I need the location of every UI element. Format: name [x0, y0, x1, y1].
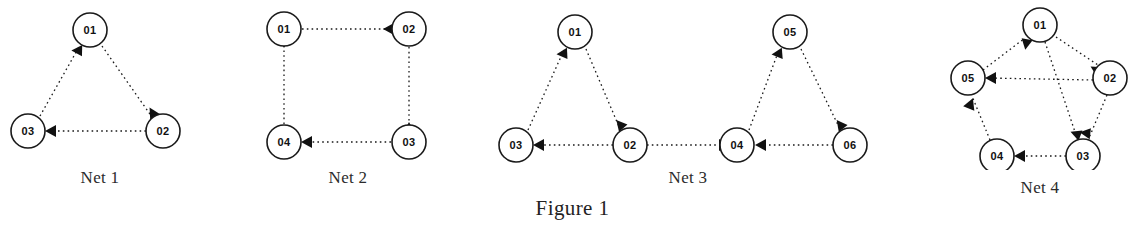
node-03[interactable]: 03: [1066, 139, 1100, 170]
net-2-nodes: 01 02 03 04: [267, 12, 426, 159]
net-panel-2: 01 02 03 04 Net 2: [238, 0, 458, 200]
node-01[interactable]: 01: [73, 13, 107, 47]
node-label: 03: [509, 139, 522, 151]
arrowhead-03-to-04: [1014, 150, 1025, 162]
net-2-graph: 01 02 03 04: [238, 0, 458, 170]
net-1-edges: [40, 42, 160, 137]
node-02[interactable]: 02: [146, 114, 180, 148]
node-label: 04: [990, 150, 1004, 162]
net-4-caption: Net 4: [935, 178, 1145, 198]
node-label: 01: [568, 26, 581, 38]
edge-01-to-02: [1056, 37, 1098, 65]
node-01[interactable]: 01: [267, 12, 301, 46]
arrowhead-02-to-05: [985, 72, 996, 84]
edge-01-to-02: [586, 49, 620, 129]
net-2-caption: Net 2: [238, 168, 458, 188]
arrowhead-04-to-05: [963, 96, 978, 111]
node-label: 01: [83, 24, 96, 36]
edge-01-to-02: [102, 46, 152, 117]
node-03[interactable]: 03: [499, 128, 533, 162]
edge-03-to-01: [528, 50, 564, 130]
net-3-edges: [528, 45, 848, 151]
node-05[interactable]: 05: [773, 15, 807, 49]
node-03[interactable]: 03: [392, 125, 426, 159]
net-4-nodes: 01 02 03 04 05: [951, 8, 1127, 170]
node-label: 03: [21, 125, 34, 137]
net-panel-3: 01 02 03 04 05: [478, 0, 898, 200]
node-01[interactable]: 01: [1023, 8, 1057, 42]
node-label: 02: [623, 139, 636, 151]
edge-05-to-06: [801, 49, 840, 129]
edge-04-to-05: [749, 50, 779, 130]
edge-02-to-05: [988, 78, 1093, 80]
node-label: 05: [783, 26, 796, 38]
edge-04-to-05: [972, 96, 990, 140]
net-4-graph: 01 02 03 04 05: [935, 0, 1145, 170]
node-05[interactable]: 05: [951, 61, 985, 95]
node-label: 01: [1033, 19, 1046, 31]
node-03[interactable]: 03: [11, 114, 45, 148]
node-02[interactable]: 02: [392, 12, 426, 46]
edge-02-to-03: [1089, 95, 1107, 138]
node-label: 01: [277, 23, 290, 35]
net-1-nodes: 01 02 03: [11, 13, 180, 148]
net-3-nodes: 01 02 03 04 05: [499, 15, 867, 162]
arrowhead-02-to-03: [533, 139, 544, 151]
net-panel-1: 01 02 03 Net 1: [0, 0, 200, 200]
net-1-caption: Net 1: [0, 168, 200, 188]
net-1-graph: 01 02 03: [0, 0, 200, 170]
node-label: 06: [843, 139, 856, 151]
node-label: 02: [156, 125, 169, 137]
net-panel-4: 01 02 03 04 05 Net: [935, 0, 1145, 200]
node-label: 03: [1076, 150, 1089, 162]
node-label: 02: [402, 23, 415, 35]
node-04[interactable]: 04: [267, 125, 301, 159]
edge-01-to-03: [1045, 42, 1077, 138]
node-label: 05: [961, 72, 974, 84]
figure-container: 01 02 03 Net 1: [0, 0, 1145, 234]
figure-caption: Figure 1: [0, 196, 1145, 221]
node-label: 02: [1103, 72, 1116, 84]
node-01[interactable]: 01: [558, 15, 592, 49]
node-02[interactable]: 02: [613, 128, 647, 162]
node-04[interactable]: 04: [980, 139, 1014, 170]
node-02[interactable]: 02: [1093, 61, 1127, 95]
net-3-graph: 01 02 03 04 05: [478, 0, 898, 170]
arrowhead-03-to-04: [301, 136, 312, 148]
net-3-caption: Net 3: [478, 168, 898, 188]
node-label: 03: [402, 136, 415, 148]
arrowhead-06-to-04: [755, 139, 766, 151]
edge-03-to-01: [40, 47, 79, 116]
arrowhead-02-to-03: [45, 125, 56, 137]
node-04[interactable]: 04: [720, 128, 754, 162]
edge-05-to-01: [983, 38, 1025, 70]
node-06[interactable]: 06: [833, 128, 867, 162]
node-label: 04: [277, 136, 291, 148]
node-label: 04: [730, 139, 744, 151]
net-2-edges: [278, 23, 415, 148]
